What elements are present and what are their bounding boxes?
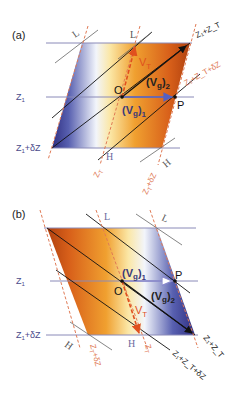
label-L1-a: L	[70, 27, 81, 40]
label-z1dz-b: Z1+δZ	[16, 330, 41, 341]
label-L1-b: L	[104, 211, 110, 222]
label-z1zTdz-a: Z₁+Z_T+δZ	[183, 60, 223, 88]
label-O-a: O	[114, 84, 123, 96]
label-z1zT-a: Z₁+Z_T	[194, 20, 222, 39]
label-H2-a: H	[160, 156, 173, 169]
label-O-b: O	[114, 285, 123, 297]
label-H1-a: H	[106, 151, 113, 162]
label-z1zT-b: Z₁+Z_T	[201, 334, 225, 360]
label-H2-b: H	[128, 338, 135, 349]
panel-b-label: (b)	[12, 208, 25, 220]
label-L2-b: L	[160, 212, 170, 225]
label-L2-a: L	[130, 29, 136, 40]
label-z1dz-a: Z1+δZ	[16, 143, 41, 154]
panel-b: (b) O P (Vg)1 (Vg)2 VT Z1 Z1+δZ L L H H …	[12, 208, 225, 382]
label-zTdz-b: ZT+δZ	[87, 343, 103, 368]
label-P-a: P	[177, 99, 184, 111]
label-z1-b: Z1	[16, 276, 26, 287]
label-P-b: P	[175, 269, 182, 281]
panel-a: (a) O P (Vg)2 (Vg)1 VT Z1 Z1+δZ L	[12, 20, 222, 196]
panel-a-label: (a)	[12, 29, 25, 41]
label-zT-b: ZT	[142, 343, 154, 354]
point-O-b	[120, 279, 124, 283]
label-z1zTdz-b: Z₁+Z_T+δZ	[171, 349, 208, 382]
label-z1-a: Z1	[16, 92, 26, 103]
label-zT-a: ZT	[92, 167, 105, 179]
thermal-wind-diagram: (a) O P (Vg)2 (Vg)1 VT Z1 Z1+δZ L	[0, 0, 244, 398]
label-H1-b: H	[63, 339, 75, 352]
label-zTdz-a: ZT+δZ	[141, 171, 160, 196]
